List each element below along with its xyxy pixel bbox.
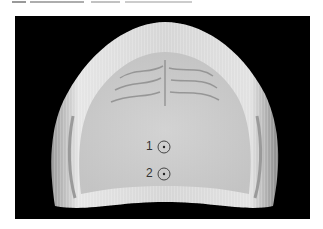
marker-overlay (15, 16, 310, 219)
cast-photo: 1 2 (15, 16, 310, 219)
cropped-caption (12, 0, 192, 5)
marker-2-label: 2 (146, 167, 153, 179)
marker-1-label: 1 (146, 140, 153, 152)
